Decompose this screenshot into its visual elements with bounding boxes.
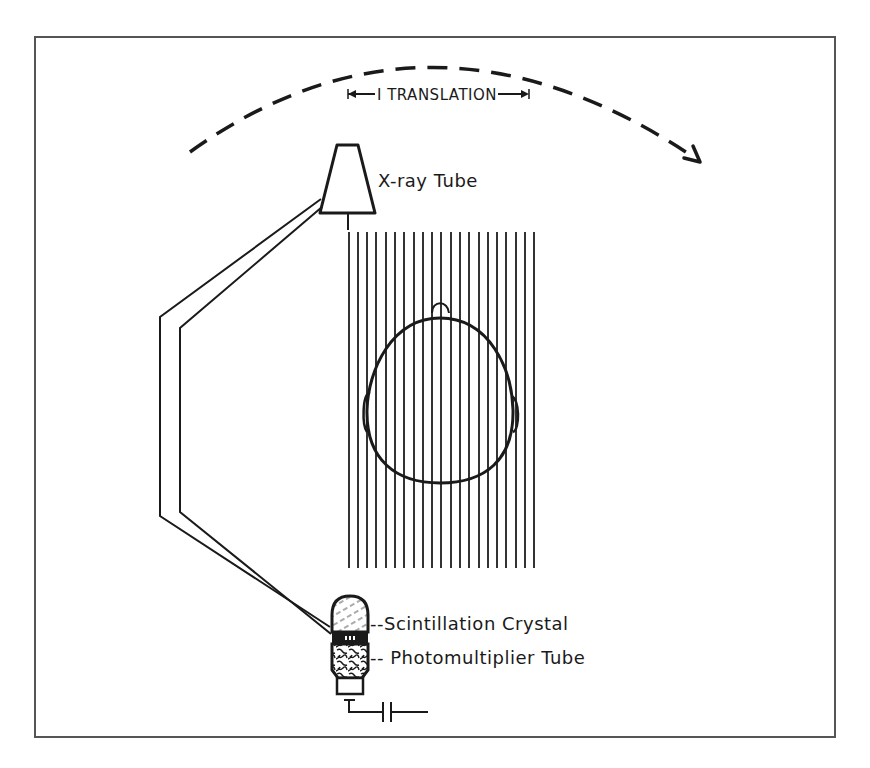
rotation-arrowhead-icon bbox=[684, 146, 700, 162]
xray-tube-icon bbox=[320, 145, 375, 213]
scintillation-crystal-icon bbox=[332, 596, 368, 632]
photomultiplier-tube-icon bbox=[332, 644, 368, 678]
connection-cable bbox=[160, 199, 348, 634]
photomultiplier-tube-label: -- Photomultiplier Tube bbox=[370, 647, 585, 668]
translation-label: I TRANSLATION bbox=[377, 86, 497, 104]
scintillation-crystal-label: --Scintillation Crystal bbox=[370, 613, 569, 634]
ct-scanner-diagram: I TRANSLATION X-ray Tube bbox=[0, 0, 870, 768]
xray-pencil-beams bbox=[349, 232, 534, 568]
capacitor-output-icon bbox=[344, 700, 428, 722]
xray-tube-label: X-ray Tube bbox=[378, 170, 478, 191]
rotation-arc bbox=[190, 67, 700, 162]
